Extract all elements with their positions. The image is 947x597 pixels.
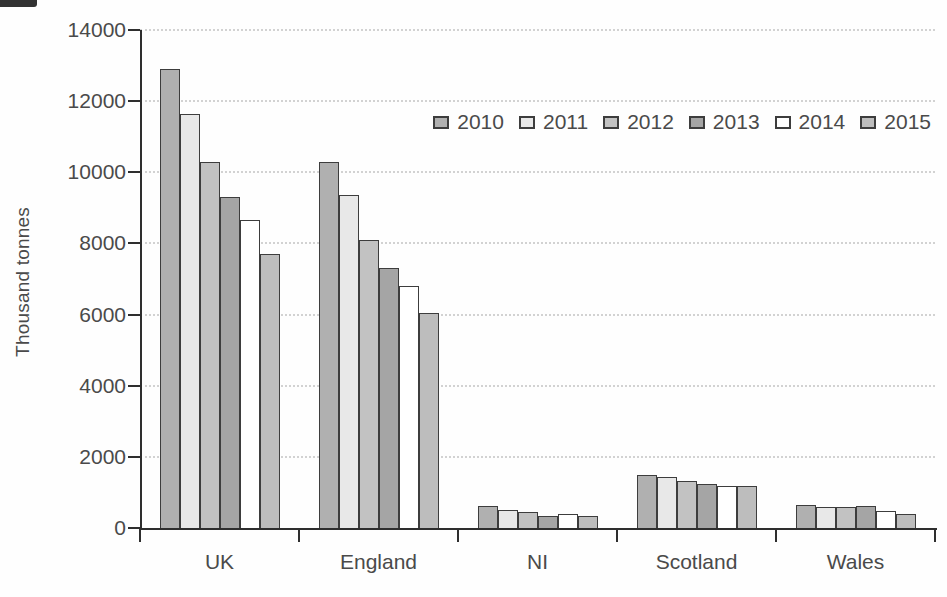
y-axis-title: Thousand tonnes [12,202,34,362]
bar-UK-2011 [180,114,200,528]
bar-Wales-2013 [856,506,876,528]
gridline-10000 [140,171,935,173]
bar-Wales-2012 [836,507,856,528]
legend-item-2013: 2013 [689,110,760,134]
y-tick-label-4000: 4000 [0,375,126,397]
y-tick-label-0: 0 [0,517,126,539]
bar-England-2013 [379,268,399,528]
bar-chart-figure: Thousand tonnes 020004000600080001000012… [0,0,947,597]
bar-UK-2012 [200,162,220,528]
bar-NI-2012 [518,512,538,528]
y-axis-tick-14000 [128,29,140,31]
bar-Scotland-2014 [717,486,737,528]
bar-Scotland-2015 [737,486,757,528]
legend-swatch-2014 [775,116,791,129]
bar-UK-2010 [160,69,180,528]
bar-NI-2013 [538,516,558,528]
y-axis-tick-6000 [128,314,140,316]
bar-NI-2010 [478,506,498,528]
bar-Scotland-2010 [637,475,657,528]
x-category-label-England: England [299,550,458,574]
y-axis-tick-8000 [128,242,140,244]
y-axis-line [140,30,142,528]
bar-NI-2015 [578,516,598,528]
y-axis-tick-4000 [128,385,140,387]
bar-Wales-2015 [896,514,916,528]
bar-England-2014 [399,286,419,528]
legend-label-2010: 2010 [457,110,504,134]
bar-Wales-2014 [876,511,896,528]
legend-swatch-2015 [860,116,876,129]
legend-label-2013: 2013 [713,110,760,134]
bar-Wales-2011 [816,507,836,528]
bar-Scotland-2012 [677,481,697,528]
bar-Scotland-2011 [657,477,677,528]
x-axis-boundary-tick-3 [616,528,618,542]
legend-item-2012: 2012 [603,110,674,134]
bar-Scotland-2013 [697,484,717,528]
x-axis-boundary-tick-1 [298,528,300,542]
gridline-12000 [140,100,935,102]
bar-NI-2011 [498,510,518,528]
y-tick-label-6000: 6000 [0,304,126,326]
x-category-label-Wales: Wales [776,550,935,574]
x-axis-boundary-tick-2 [457,528,459,542]
bar-UK-2014 [240,220,260,528]
bar-UK-2015 [260,254,280,528]
bar-England-2012 [359,240,379,528]
legend-swatch-2013 [689,116,705,129]
legend-label-2012: 2012 [627,110,674,134]
bar-UK-2013 [220,197,240,528]
bar-England-2015 [419,313,439,528]
y-tick-label-14000: 14000 [0,19,126,41]
legend-item-2010: 2010 [433,110,504,134]
legend: 201020112012201320142015 [433,110,931,134]
x-axis-boundary-tick-0 [139,528,141,542]
legend-item-2014: 2014 [775,110,846,134]
y-axis-tick-10000 [128,171,140,173]
y-tick-label-8000: 8000 [0,232,126,254]
legend-label-2014: 2014 [799,110,846,134]
bar-Wales-2010 [796,505,816,528]
x-axis-line [140,528,937,530]
x-axis-boundary-tick-4 [775,528,777,542]
legend-swatch-2010 [433,116,449,129]
legend-label-2015: 2015 [884,110,931,134]
scan-artifact [0,0,37,7]
y-tick-label-10000: 10000 [0,161,126,183]
x-category-label-NI: NI [458,550,617,574]
x-category-label-Scotland: Scotland [617,550,776,574]
legend-swatch-2011 [519,116,535,129]
legend-label-2011: 2011 [543,110,588,134]
legend-item-2011: 2011 [519,110,588,134]
bar-England-2011 [339,195,359,528]
bar-England-2010 [319,162,339,528]
y-tick-label-2000: 2000 [0,446,126,468]
legend-item-2015: 2015 [860,110,931,134]
x-category-label-UK: UK [140,550,299,574]
gridline-14000 [140,29,935,31]
y-axis-tick-12000 [128,100,140,102]
legend-swatch-2012 [603,116,619,129]
x-axis-boundary-tick-5 [934,528,936,542]
y-tick-label-12000: 12000 [0,90,126,112]
y-axis-tick-2000 [128,456,140,458]
bar-NI-2014 [558,514,578,528]
